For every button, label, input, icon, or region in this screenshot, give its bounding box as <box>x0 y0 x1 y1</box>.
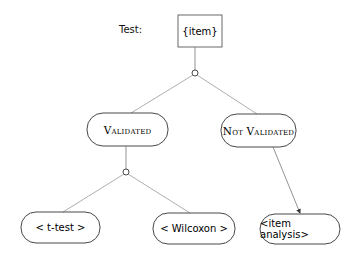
test-label: Test: <box>119 24 142 35</box>
item-analysis-label: <item analysis> <box>260 218 340 240</box>
not-validated-node: Not Validated <box>221 114 296 147</box>
wilcoxon-label: < Wilcoxon > <box>160 223 228 234</box>
wilcoxon-node: < Wilcoxon > <box>153 213 235 244</box>
not-validated-label: Not Validated <box>223 125 294 137</box>
decision-tree-diagram: Test: {item} Validated Not Validated < t… <box>0 0 359 261</box>
t-test-label: < t-test > <box>36 222 86 233</box>
validated-label: Validated <box>104 124 152 136</box>
root-node: {item} <box>178 15 222 47</box>
validated-node: Validated <box>87 113 168 146</box>
item-analysis-node: <item analysis> <box>260 214 340 244</box>
root-node-label: {item} <box>182 26 217 37</box>
t-test-node: < t-test > <box>21 212 100 243</box>
